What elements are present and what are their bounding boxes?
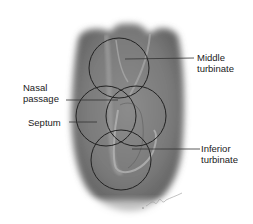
nasal-anatomy-diagram: Middle turbinate Nasal passage Septum In… bbox=[0, 0, 253, 224]
label-inferior-turbinate: Inferior turbinate bbox=[201, 143, 238, 165]
label-middle-turbinate: Middle turbinate bbox=[197, 52, 234, 74]
label-septum: Septum bbox=[28, 117, 61, 128]
anatomy-illustration bbox=[0, 0, 253, 224]
nasal-tissue bbox=[70, 24, 190, 224]
label-nasal-passage: Nasal passage bbox=[23, 82, 59, 104]
